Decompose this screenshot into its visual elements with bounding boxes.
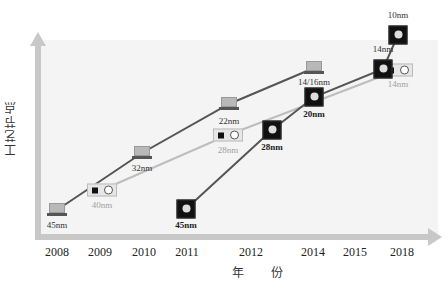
soc-label-2015: 14nm [373, 44, 394, 54]
x-tick-2015: 2015 [343, 245, 367, 260]
laptop-icon [47, 203, 67, 217]
laptop-label-2010: 32nm [132, 163, 153, 173]
gpu-label-2012: 28nm [218, 145, 239, 155]
soc-label-2011: 45nm [175, 220, 197, 230]
gpu-label-2009: 40nm [92, 200, 113, 210]
gpu-card-icon [87, 184, 117, 197]
x-tick-2008: 2008 [45, 245, 69, 260]
soc-chip-icon [374, 60, 393, 79]
soc-chip-icon [389, 26, 408, 45]
x-tick-2009: 2009 [88, 245, 112, 260]
soc-label-28nm: 28nm [261, 142, 283, 152]
laptop-label-2008: 45nm [47, 220, 68, 230]
laptop-icon [132, 146, 152, 160]
process-node-chart: 工艺节点 2008 2009 2010 2011 2012 2014 2015 … [0, 0, 448, 288]
y-axis-arrow [30, 32, 46, 236]
laptop-icon [304, 61, 324, 75]
soc-label-2014: 20nm [303, 109, 325, 119]
gpu-card-icon [213, 129, 243, 142]
x-tick-2012: 2012 [239, 245, 263, 260]
x-tick-2014: 2014 [301, 245, 325, 260]
soc-chip-icon [305, 88, 324, 107]
laptop-label-2014: 14/16nm [298, 77, 330, 87]
laptop-icon [219, 97, 239, 111]
x-tick-2011: 2011 [175, 245, 199, 260]
x-tick-2010: 2010 [132, 245, 156, 260]
x-axis-label: 年 份 [232, 263, 295, 281]
y-axis-label: 工艺节点 [2, 100, 22, 156]
gpu-label-2018: 14nm [388, 79, 409, 89]
soc-label-2018: 10nm [388, 10, 409, 20]
soc-chip-icon [263, 121, 282, 140]
laptop-label-2012: 22nm [219, 116, 240, 126]
soc-chip-icon [177, 200, 196, 219]
x-axis-arrow [35, 228, 442, 246]
x-tick-2018: 2018 [390, 245, 414, 260]
